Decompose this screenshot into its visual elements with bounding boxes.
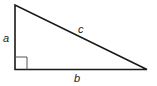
hypotenuse-c-label: c	[78, 23, 84, 35]
right-triangle-diagram: a c b	[0, 0, 157, 86]
side-a-label: a	[3, 32, 9, 44]
side-b-label: b	[74, 72, 80, 84]
right-angle-marker	[15, 57, 27, 70]
triangle	[15, 5, 147, 70]
